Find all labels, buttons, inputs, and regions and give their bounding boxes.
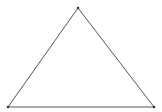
vertex-bottom-left (7, 106, 10, 109)
vertex-bottom-right (153, 106, 156, 109)
triangle-shape (8, 8, 154, 107)
triangle-diagram (0, 0, 162, 112)
vertex-top (77, 7, 80, 10)
